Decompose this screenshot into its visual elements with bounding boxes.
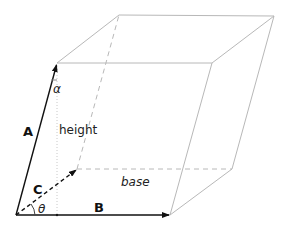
theta-arc <box>31 204 35 215</box>
edge-bottom-right <box>170 169 232 215</box>
edge-top-right <box>212 16 274 63</box>
label-theta: θ <box>38 202 46 216</box>
edge-back-left-hidden <box>77 15 119 169</box>
edge-top-left <box>57 15 119 63</box>
label-c: C <box>33 182 43 197</box>
edge-top-back <box>119 15 274 16</box>
vector-c <box>16 170 76 215</box>
label-b: B <box>94 200 104 215</box>
edge-front-right <box>170 63 212 215</box>
parallelepiped-diagram: A B C α θ height base <box>0 0 285 233</box>
label-base: base <box>121 175 150 189</box>
label-height: height <box>59 123 98 137</box>
solid-edges <box>57 15 274 215</box>
label-a: A <box>23 124 33 139</box>
diagram-canvas: A B C α θ height base <box>0 0 285 233</box>
edge-back-right <box>232 16 274 169</box>
hidden-edges <box>77 15 232 169</box>
label-alpha: α <box>53 82 61 96</box>
